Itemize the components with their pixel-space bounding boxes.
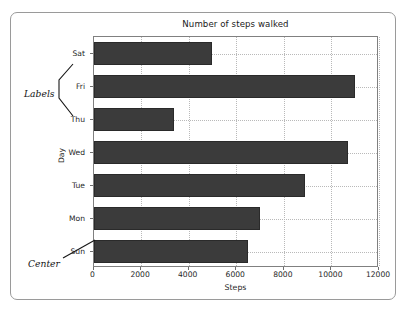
y-tick-label-mon: Mon xyxy=(69,213,85,222)
x-tick-label-4000: 4000 xyxy=(178,270,197,279)
y-tick-mark xyxy=(90,218,93,219)
bar-mon xyxy=(94,207,261,231)
x-tick-label-2000: 2000 xyxy=(130,270,149,279)
y-tick-mark xyxy=(90,53,93,54)
bar-thu xyxy=(94,108,175,132)
y-tick-mark xyxy=(90,152,93,153)
plot-inner xyxy=(94,37,378,266)
x-tick-label-10000: 10000 xyxy=(318,270,342,279)
bar-wed xyxy=(94,141,349,165)
y-tick-mark xyxy=(90,119,93,120)
y-tick-label-fri: Fri xyxy=(76,81,85,90)
x-axis-title: Steps xyxy=(92,283,379,292)
y-axis-title: Day xyxy=(57,148,66,163)
y-tick-label-sun: Sun xyxy=(71,246,85,255)
y-tick-mark xyxy=(90,86,93,87)
screenshot-root: Number of steps walked Day Steps Labels … xyxy=(0,0,409,314)
annotation-center: Center xyxy=(28,258,60,269)
annotation-labels: Labels xyxy=(24,88,55,99)
y-tick-label-thu: Thu xyxy=(71,114,85,123)
x-tick-label-6000: 6000 xyxy=(226,270,245,279)
x-tick-label-12000: 12000 xyxy=(366,270,390,279)
y-tick-label-tue: Tue xyxy=(72,180,85,189)
y-tick-label-wed: Wed xyxy=(68,147,85,156)
bar-sat xyxy=(94,42,213,66)
chart-title: Number of steps walked xyxy=(92,19,379,29)
x-tick-label-8000: 8000 xyxy=(273,270,292,279)
bar-sun xyxy=(94,240,249,264)
bar-fri xyxy=(94,75,356,99)
y-tick-label-sat: Sat xyxy=(73,48,85,57)
bar-tue xyxy=(94,174,306,198)
x-gridline xyxy=(379,37,380,266)
y-tick-mark xyxy=(90,251,93,252)
plot-area xyxy=(93,36,379,267)
x-tick-label-0: 0 xyxy=(90,270,95,279)
y-tick-mark xyxy=(90,185,93,186)
